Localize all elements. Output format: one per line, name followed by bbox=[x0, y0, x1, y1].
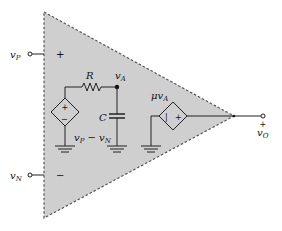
capacitor-label: C bbox=[99, 112, 107, 123]
svg-text:+: + bbox=[175, 113, 182, 122]
plus-sign: + bbox=[56, 49, 64, 60]
terminal-vo: + vO bbox=[233, 114, 269, 140]
vn-label: vN bbox=[10, 170, 23, 183]
op-amp-diagram: vP + vN − + − vP − vN R vA bbox=[0, 0, 282, 231]
vp-label: vP bbox=[10, 49, 21, 62]
minus-sign: − bbox=[56, 170, 64, 181]
resistor-label: R bbox=[85, 70, 94, 81]
svg-text:+: + bbox=[62, 103, 69, 112]
svg-text:|: | bbox=[165, 113, 168, 122]
svg-text:−: − bbox=[61, 115, 68, 124]
